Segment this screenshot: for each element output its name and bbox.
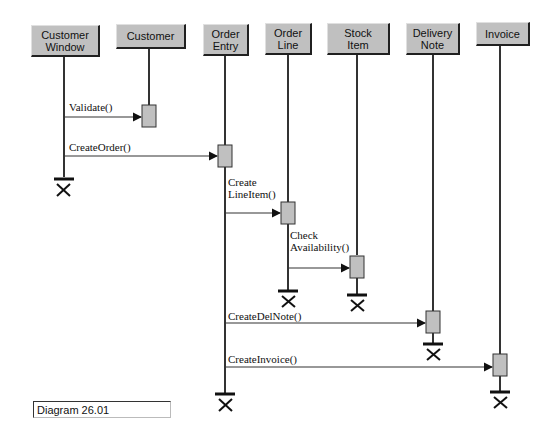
object-customer-window[interactable]: Customer Window (31, 25, 100, 57)
activation-order-line (281, 202, 295, 224)
destroy-icon-invoice (494, 397, 507, 408)
activation-delivery-note (426, 311, 440, 333)
object-stock-item[interactable]: Stock Item (327, 23, 390, 55)
object-order-entry[interactable]: Order Entry (203, 24, 249, 56)
destroy-icon-delivery-note (427, 349, 440, 360)
activation-stock-item (350, 256, 364, 278)
activation-invoice (493, 354, 507, 376)
message-create-invoice: CreateInvoice() (228, 353, 297, 365)
object-invoice[interactable]: Invoice (476, 22, 530, 46)
sequence-diagram: Customer Window Customer Order Entry Ord… (0, 0, 556, 443)
message-check-availability: Check Availability() (290, 229, 349, 253)
object-delivery-note[interactable]: Delivery Note (406, 23, 460, 55)
message-create-del-note: CreateDelNote() (228, 310, 301, 322)
diagram-caption: Diagram 26.01 (33, 401, 171, 418)
object-customer[interactable]: Customer (116, 24, 186, 49)
message-validate: Validate() (69, 101, 112, 113)
destroy-icon-order-entry (219, 399, 232, 411)
message-create-order: CreateOrder() (69, 141, 131, 153)
object-order-line[interactable]: Order Line (265, 23, 312, 55)
activation-customer (142, 105, 156, 127)
message-create-line-item: Create LineItem() (228, 176, 276, 200)
destroy-icon-stock-item (351, 300, 364, 311)
destroy-icon-order-line (282, 296, 295, 307)
diagram-lines (0, 0, 556, 443)
activation-order-entry (218, 145, 232, 167)
destroy-icon-customer-window (57, 184, 70, 196)
